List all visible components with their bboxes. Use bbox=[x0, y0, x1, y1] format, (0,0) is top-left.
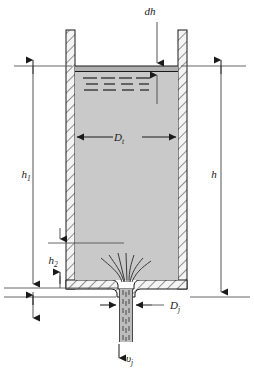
tank-diameter-base: D bbox=[113, 131, 122, 143]
jet-diameter-base: D bbox=[169, 299, 178, 311]
liquid-body bbox=[75, 71, 178, 280]
h2-sub: 2 bbox=[54, 260, 58, 269]
jet-diameter-label: Dj bbox=[169, 299, 180, 314]
liquid-jet bbox=[119, 289, 133, 342]
h-label: h bbox=[211, 168, 217, 180]
tank-wall-right bbox=[178, 30, 187, 289]
jet-diameter-sub: j bbox=[177, 305, 180, 314]
tank-draining-figure: dh Dt h1 h bbox=[0, 0, 254, 380]
dh-label: dh bbox=[145, 5, 157, 17]
jet-velocity-sub: j bbox=[130, 358, 133, 367]
h-base: h bbox=[211, 168, 217, 180]
nozzle-exit-reference-line bbox=[4, 292, 116, 318]
h1-sub: 1 bbox=[27, 174, 31, 183]
figure-canvas: dh Dt h1 h bbox=[0, 0, 254, 380]
dh-slab bbox=[75, 66, 178, 72]
h1-label: h1 bbox=[21, 168, 30, 183]
h2-label: h2 bbox=[48, 254, 58, 269]
tank-wall-left bbox=[66, 30, 75, 289]
jet-velocity-label: υj bbox=[126, 352, 133, 367]
